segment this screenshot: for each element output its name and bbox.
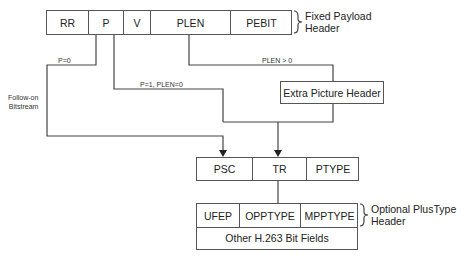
field-psc: PSC — [197, 158, 252, 180]
extra-picture-header: Extra Picture Header — [280, 81, 384, 104]
fixed-header-label: Fixed Payload Header — [305, 10, 372, 34]
field-ptype: PTYPE — [306, 158, 359, 180]
field-rr: RR — [47, 11, 88, 34]
field-tr: TR — [252, 158, 306, 180]
other-h263-fields: Other H.263 Bit Fields — [197, 227, 357, 249]
follow-on-label: Follow-on Bitstream — [8, 93, 38, 111]
plustype-brace — [360, 204, 368, 226]
p0-connector — [47, 34, 223, 150]
plen-connector — [189, 34, 333, 81]
plustype-row: UFEP OPPTYPE MPPTYPE — [197, 204, 357, 228]
p0-label: P=0 — [58, 57, 71, 64]
field-p: P — [88, 11, 123, 34]
p1-connector — [114, 34, 223, 122]
field-v: V — [123, 11, 150, 34]
plustype-header: UFEP OPPTYPE MPPTYPE Other H.263 Bit Fie… — [196, 203, 358, 250]
arrow-to-psc — [219, 150, 227, 157]
arrow-to-tr — [274, 150, 282, 157]
plen-gt0-label: PLEN > 0 — [262, 57, 292, 64]
field-mpptype: MPPTYPE — [300, 204, 358, 227]
field-opptype: OPPTYPE — [239, 204, 300, 227]
fixed-header-brace — [294, 11, 302, 33]
fixed-payload-header: RR P V PLEN PEBIT — [46, 10, 292, 35]
picture-header: PSC TR PTYPE — [196, 157, 359, 181]
field-ufep: UFEP — [197, 204, 239, 227]
extra-header-connector — [223, 103, 333, 122]
p1-plen0-label: P=1, PLEN=0 — [140, 81, 183, 88]
field-pebit: PEBIT — [230, 11, 292, 34]
plustype-header-label: Optional PlusType Header — [371, 203, 456, 227]
field-plen: PLEN — [150, 11, 230, 34]
